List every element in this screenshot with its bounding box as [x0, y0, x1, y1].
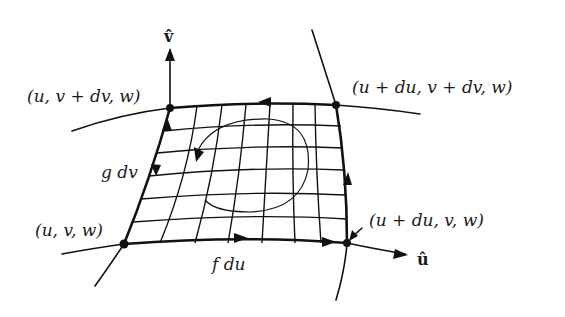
- top-edge: [170, 104, 336, 108]
- bottom-left-corner-label: (u, v, w): [35, 220, 103, 240]
- left-edge-label: g dv: [101, 162, 138, 182]
- left-curve-bottom-extension: [95, 244, 124, 286]
- corner-dot-bottom-left: [120, 240, 129, 249]
- v-axis-arrowhead-icon: [165, 48, 175, 61]
- bottom-right-pointer-arrowhead-icon: [349, 230, 358, 241]
- left-edge-arrow-up-icon: [162, 117, 172, 131]
- top-left-corner-label: (u, v + dv, w): [27, 86, 141, 106]
- bottom-edge-arrow-1-icon: [234, 233, 248, 243]
- top-curve-left-extension: [72, 108, 170, 131]
- bottom-edge-arrow-2-icon: [322, 237, 336, 247]
- bottom-edge-label: f du: [210, 254, 246, 274]
- top-right-corner-label: (u + du, v + dv, w): [352, 77, 512, 97]
- right-curve-top-extension: [312, 30, 336, 105]
- top-curve-right-extension: [336, 105, 420, 114]
- curvilinear-patch-diagram: v̂ û (u, v + dv, w) (u + du, v + dv, w) …: [0, 0, 565, 317]
- u-axis-arrowhead-icon: [393, 249, 408, 259]
- bottom-curve-left-extension: [62, 244, 124, 254]
- bottom-right-corner-label: (u + du, v, w): [369, 210, 484, 230]
- right-curve-bottom-extension: [336, 243, 347, 300]
- corner-dot-top-right: [332, 101, 340, 109]
- u-hat-label: û: [417, 250, 429, 269]
- corner-dot-top-left: [166, 104, 174, 112]
- circulation-loop: [194, 119, 309, 212]
- top-edge-arrow-icon: [258, 97, 271, 107]
- v-hat-label: v̂: [163, 27, 174, 46]
